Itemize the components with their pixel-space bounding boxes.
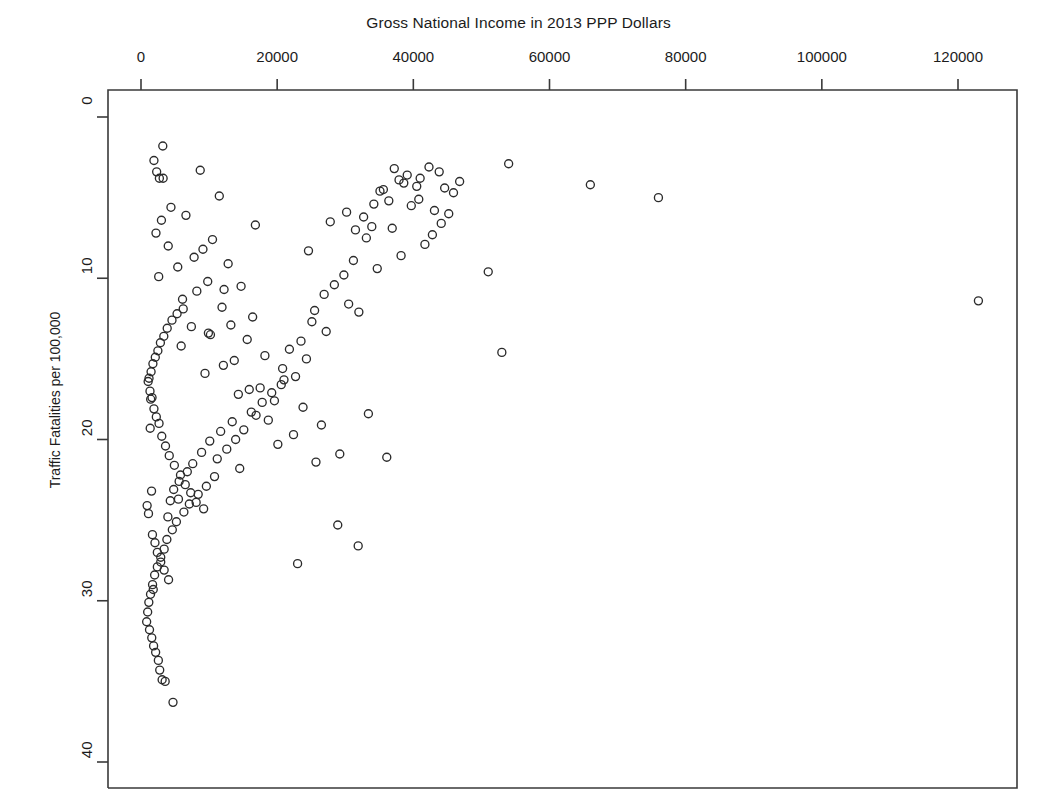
data-point	[270, 397, 278, 405]
data-point	[160, 332, 168, 340]
data-point	[505, 160, 513, 168]
x-tick-label-5: 100000	[797, 48, 847, 65]
x-tick-label-4: 80000	[665, 48, 707, 65]
data-point	[167, 203, 175, 211]
data-point	[179, 295, 187, 303]
y-tick-label-4: 40	[78, 742, 95, 782]
data-point	[145, 598, 153, 606]
data-point	[150, 157, 158, 165]
data-point	[187, 323, 195, 331]
data-point	[425, 163, 433, 171]
data-point	[441, 184, 449, 192]
data-point	[144, 510, 152, 518]
data-point	[251, 221, 259, 229]
data-point	[322, 327, 330, 335]
data-point	[237, 282, 245, 290]
data-point	[194, 490, 202, 498]
data-point	[279, 365, 287, 373]
data-point	[243, 336, 251, 344]
data-point	[355, 308, 363, 316]
plot-frame	[108, 90, 1017, 788]
data-point	[354, 542, 362, 550]
data-point	[249, 313, 257, 321]
data-point	[430, 207, 438, 215]
data-point	[362, 234, 370, 242]
data-point	[232, 436, 240, 444]
data-point	[211, 473, 219, 481]
data-point	[148, 634, 156, 642]
data-point	[364, 410, 372, 418]
data-point	[312, 458, 320, 466]
data-point	[317, 421, 325, 429]
y-tick-label-0: 0	[78, 97, 95, 137]
data-point	[215, 192, 223, 200]
data-point	[144, 608, 152, 616]
data-point	[228, 418, 236, 426]
data-point	[190, 253, 198, 261]
data-point	[290, 431, 298, 439]
data-point	[223, 445, 231, 453]
data-point	[193, 287, 201, 295]
data-point	[168, 526, 176, 534]
data-point	[146, 424, 154, 432]
data-point	[201, 369, 209, 377]
data-point	[217, 427, 225, 435]
data-point	[204, 329, 212, 337]
data-point	[198, 448, 206, 456]
data-point	[274, 440, 282, 448]
data-point	[456, 178, 464, 186]
data-point	[180, 508, 188, 516]
data-point	[345, 300, 353, 308]
x-tick-label-0: 0	[137, 48, 145, 65]
data-point	[169, 698, 177, 706]
data-point	[156, 666, 164, 674]
data-point	[340, 271, 348, 279]
data-point	[224, 260, 232, 268]
data-points-group	[143, 142, 983, 706]
data-point	[484, 268, 492, 276]
data-point	[150, 405, 158, 413]
data-point	[202, 482, 210, 490]
data-point	[148, 487, 156, 495]
data-point	[206, 437, 214, 445]
data-point	[160, 566, 168, 574]
data-point	[435, 168, 443, 176]
data-point	[163, 535, 171, 543]
data-point	[230, 356, 238, 364]
y-tick-label-3: 30	[78, 580, 95, 620]
data-point	[351, 226, 359, 234]
data-point	[245, 386, 253, 394]
data-point	[146, 626, 154, 634]
data-point	[174, 495, 182, 503]
data-point	[170, 461, 178, 469]
data-point	[200, 505, 208, 513]
data-point	[445, 210, 453, 218]
x-tick-label-1: 20000	[256, 48, 298, 65]
data-point	[586, 181, 594, 189]
data-point	[349, 257, 357, 265]
data-point	[285, 345, 293, 353]
data-point	[159, 142, 167, 150]
data-point	[297, 337, 305, 345]
data-point	[151, 571, 159, 579]
data-point	[299, 403, 307, 411]
data-point	[326, 218, 334, 226]
data-point	[304, 247, 312, 255]
data-point	[166, 497, 174, 505]
data-point	[373, 265, 381, 273]
data-point	[152, 229, 160, 237]
data-point	[177, 342, 185, 350]
data-point	[182, 211, 190, 219]
data-point	[187, 489, 195, 497]
data-point	[343, 208, 351, 216]
data-point	[163, 324, 171, 332]
data-point	[416, 174, 424, 182]
data-point	[302, 355, 310, 363]
data-point	[413, 182, 421, 190]
data-point	[330, 281, 338, 289]
data-point	[158, 432, 166, 440]
data-point	[196, 166, 204, 174]
data-point	[292, 373, 300, 381]
data-point	[179, 305, 187, 313]
data-point	[157, 216, 165, 224]
